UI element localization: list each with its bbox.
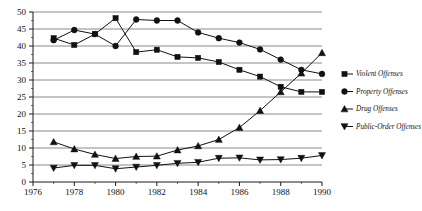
data-point-square (257, 74, 262, 79)
data-point-triangle-up (71, 146, 78, 152)
data-point-circle (216, 35, 222, 41)
legend-label: Property Offenses (355, 88, 408, 96)
data-series-group (50, 16, 325, 173)
x-tick-label: 1988 (272, 187, 291, 197)
data-point-square (134, 50, 139, 55)
data-point-circle (195, 30, 201, 36)
legend-entry: Public-Order Offenses (341, 123, 421, 131)
legend-entry: Violent Offenses (342, 70, 403, 78)
y-axis-ticks (29, 12, 33, 182)
data-point-square (72, 42, 77, 47)
x-tick-label: 1982 (148, 187, 166, 197)
series-drug-offenses (50, 49, 325, 161)
data-point-circle (51, 37, 57, 43)
chart-canvas: 05101520253035404550 1976197819801982198… (0, 0, 422, 211)
x-axis-ticks (33, 182, 322, 186)
data-point-square (154, 47, 159, 52)
y-tick-label: 35 (17, 58, 27, 68)
x-tick-label: 1978 (65, 187, 84, 197)
y-tick-label: 50 (17, 7, 27, 17)
data-point-circle (319, 71, 325, 77)
data-point-circle (113, 43, 119, 49)
data-point-circle (257, 47, 263, 53)
data-point-circle (154, 18, 160, 24)
data-point-triangle-up (50, 138, 57, 144)
data-point-square (319, 89, 324, 94)
y-tick-label: 0 (22, 177, 27, 187)
data-point-circle (92, 31, 98, 37)
y-tick-label: 5 (22, 160, 27, 170)
series-violent-offenses (51, 16, 325, 95)
y-tick-label: 15 (17, 126, 27, 136)
data-point-triangle-up (319, 49, 326, 55)
data-point-circle (342, 89, 348, 95)
y-tick-label: 45 (17, 24, 27, 34)
legend-label: Drug Offenses (355, 105, 398, 113)
data-point-square (342, 71, 347, 76)
x-tick-label: 1986 (230, 187, 249, 197)
legend-entry: Property Offenses (342, 88, 408, 96)
series-line (54, 19, 322, 73)
y-axis-tick-labels: 05101520253035404550 (17, 7, 27, 187)
data-point-circle (237, 40, 243, 46)
data-point-triangle-up (215, 136, 222, 142)
legend-entry: Drug Offenses (341, 105, 398, 113)
data-point-triangle-down (112, 166, 119, 172)
y-tick-label: 40 (17, 41, 27, 51)
data-point-square (175, 54, 180, 59)
data-point-triangle-down (50, 165, 57, 171)
legend-label: Public-Order Offenses (355, 123, 421, 131)
data-point-circle (175, 18, 181, 24)
data-point-square (299, 89, 304, 94)
data-point-circle (71, 27, 77, 33)
x-tick-label: 1984 (189, 187, 208, 197)
line-chart-figure: 05101520253035404550 1976197819801982198… (0, 0, 422, 211)
y-tick-label: 10 (17, 143, 27, 153)
data-point-circle (133, 17, 139, 23)
y-tick-label: 25 (17, 92, 27, 102)
y-tick-label: 30 (17, 75, 27, 85)
x-tick-label: 1976 (24, 187, 43, 197)
x-tick-label: 1980 (107, 187, 126, 197)
x-axis-tick-labels: 19761978198019821984198619881990 (24, 187, 332, 197)
data-point-square (113, 16, 118, 21)
data-point-square (216, 59, 221, 64)
series-line (54, 53, 322, 159)
chart-legend: Violent OffensesProperty OffensesDrug Of… (341, 70, 421, 131)
x-tick-label: 1990 (313, 187, 332, 197)
series-public-order-offenses (50, 153, 325, 173)
data-point-square (196, 55, 201, 60)
series-property-offenses (51, 17, 325, 77)
data-point-square (237, 67, 242, 72)
y-tick-label: 20 (17, 109, 27, 119)
data-point-circle (278, 57, 284, 63)
legend-label: Violent Offenses (356, 70, 403, 78)
